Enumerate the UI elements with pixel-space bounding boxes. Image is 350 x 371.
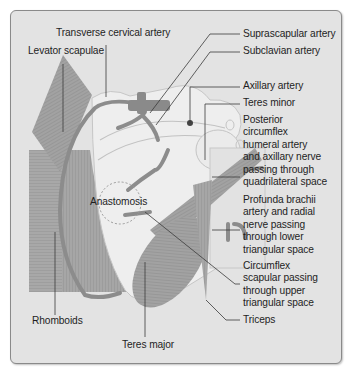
label-circumflex-scapular: Circumflex scapular passing through uppe… <box>243 260 318 310</box>
label-posterior-circumflex: Posterior circumflex humeral artery and … <box>243 114 327 188</box>
label-teres-major: Teres major <box>122 339 174 351</box>
label-profunda-brachii: Profunda brachii artery and radial nerve… <box>243 194 316 256</box>
label-teres-minor: Teres minor <box>243 97 295 109</box>
label-triceps: Triceps <box>243 314 275 326</box>
label-axillary-artery: Axillary artery <box>243 80 303 92</box>
label-suprascapular-artery: Suprascapular artery <box>243 28 336 40</box>
label-rhomboids: Rhomboids <box>32 315 83 327</box>
label-subclavian-artery: Subclavian artery <box>243 45 320 57</box>
label-anastomosis: Anastomosis <box>90 196 147 208</box>
label-levator-scapulae: Levator scapulae <box>28 45 104 57</box>
label-transverse-cervical-artery: Transverse cervical artery <box>56 27 170 39</box>
subclavian-artery-segment <box>128 100 170 111</box>
